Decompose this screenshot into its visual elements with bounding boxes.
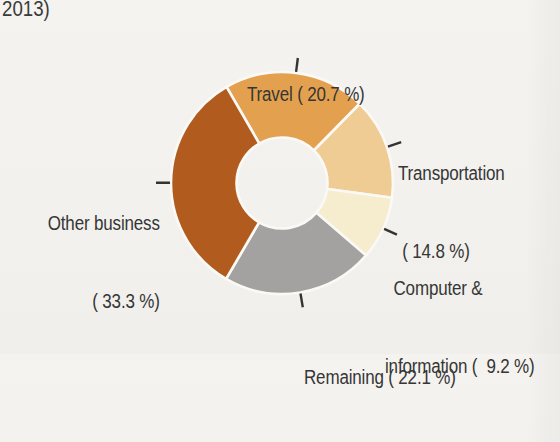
label-remaining: Remaining ( 22.1 %) bbox=[304, 312, 456, 442]
label-travel-text: Travel ( 20.7 %) bbox=[247, 81, 365, 107]
label-other-business: Other business ( 33.3 %) bbox=[48, 158, 160, 366]
label-remaining-text: Remaining ( 22.1 %) bbox=[304, 364, 456, 390]
label-travel: Travel ( 20.7 %) bbox=[247, 29, 365, 159]
label-other-business-value: ( 33.3 %) bbox=[48, 288, 160, 314]
label-transportation-name: Transportation bbox=[398, 160, 505, 186]
leader-tick-remaining bbox=[300, 293, 302, 307]
label-other-business-name: Other business bbox=[48, 210, 160, 236]
label-computer-information-name: Computer & bbox=[394, 275, 535, 301]
